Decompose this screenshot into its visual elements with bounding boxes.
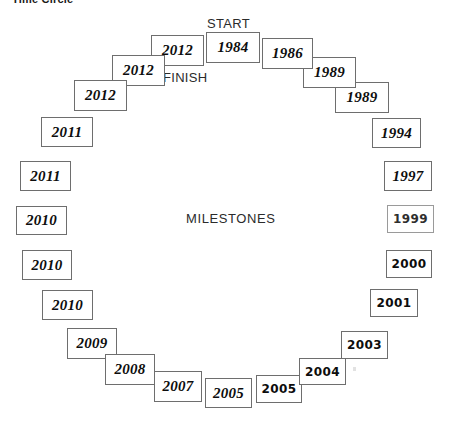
time-circle-diagram: Time Circle START FINISH MILESTONES 1984… [0,0,476,425]
milestone-box[interactable]: 2007 [154,371,202,402]
milestone-year-label: 1994 [381,126,412,141]
finish-label: FINISH [163,70,207,85]
milestone-year-label: 2008 [114,362,145,377]
milestone-year-label: 2007 [162,379,193,394]
milestone-box[interactable]: 2012 [74,80,127,111]
milestone-year-label: 2012 [162,43,193,58]
milestone-year-label: 2003 [347,339,382,351]
start-label: START [207,16,250,31]
milestone-box[interactable]: 2005 [256,375,302,403]
milestone-year-label: 2012 [123,63,154,78]
milestone-box[interactable]: 2010 [22,250,72,280]
milestone-year-label: 2010 [52,298,83,313]
milestone-box[interactable]: 2000 [386,250,432,278]
milestone-year-label: 2011 [52,125,82,140]
center-label: MILESTONES [186,211,276,226]
milestone-box[interactable]: 1984 [206,32,260,63]
milestone-box[interactable]: 1999 [387,205,434,233]
milestone-box[interactable]: 1986 [262,38,313,69]
page-title: Time Circle [12,0,73,5]
milestone-year-label: 1997 [392,169,423,184]
milestone-year-label: 1986 [272,46,303,61]
milestone-box[interactable]: 1994 [372,118,421,148]
milestone-box[interactable]: 1997 [384,161,432,191]
milestone-year-label: 2005 [262,383,297,395]
milestone-year-label: 2005 [213,386,244,401]
milestone-year-label: 1989 [314,65,345,80]
milestone-box[interactable]: 2008 [105,354,155,385]
milestone-box[interactable]: 2011 [41,117,93,147]
milestone-box[interactable]: 2010 [42,290,93,320]
milestone-box[interactable]: 2010 [16,206,67,235]
milestone-box[interactable]: 2004 [299,358,346,385]
milestone-year-label: 1984 [217,40,248,55]
milestone-year-label: 2009 [76,336,107,351]
milestone-box[interactable]: 2001 [370,289,418,317]
scan-artifact-mark [353,367,356,371]
milestone-year-label: 2012 [85,88,116,103]
milestone-year-label: 1989 [346,90,377,105]
milestone-year-label: 2004 [305,366,340,378]
milestone-year-label: 2001 [377,297,412,309]
milestone-year-label: 2010 [26,213,57,228]
milestone-year-label: 1999 [393,213,428,225]
milestone-box[interactable]: 2011 [20,161,71,191]
milestone-box[interactable]: 2003 [341,331,388,359]
milestone-box[interactable]: 2005 [205,378,252,408]
milestone-year-label: 2010 [31,258,62,273]
milestone-year-label: 2011 [30,169,60,184]
milestone-year-label: 2000 [392,258,427,270]
